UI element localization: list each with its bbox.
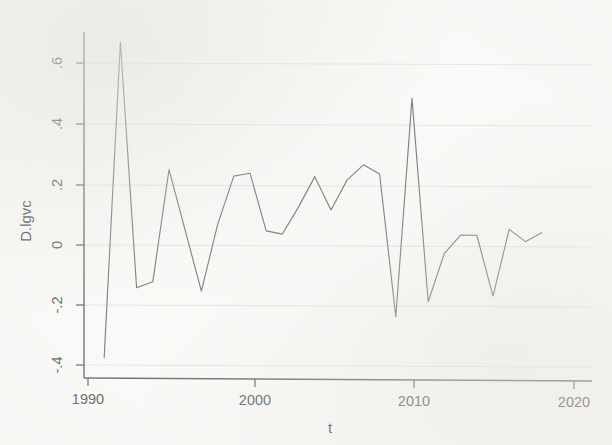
x-axis-line (84, 378, 592, 381)
y-tick-label: .2 (49, 179, 65, 191)
y-tick-label: -.2 (49, 297, 65, 314)
x-axis (84, 378, 592, 389)
y-tick-labels: .6 .4 .2 0 -.2 -.4 (49, 57, 65, 374)
data-series-line (104, 42, 541, 357)
x-tick-label: 2020 (558, 394, 590, 410)
x-tick-label: 2010 (398, 393, 430, 409)
y-axis-title: D.lgvc (17, 200, 34, 242)
y-tick-label: 0 (49, 241, 65, 249)
line-chart-svg: .6 .4 .2 0 -.2 -.4 D.lgvc 1990 2000 2010… (0, 0, 612, 445)
grid-line (84, 245, 592, 247)
x-tick-label: 2000 (239, 392, 271, 408)
grid-line (84, 305, 592, 307)
grid-line (84, 124, 592, 126)
y-tick-label: -.4 (49, 357, 65, 374)
chart-figure: .6 .4 .2 0 -.2 -.4 D.lgvc 1990 2000 2010… (0, 0, 612, 445)
y-tick-label: .6 (49, 57, 65, 69)
x-axis-title: t (328, 419, 333, 436)
y-tick-label: .4 (49, 118, 65, 130)
grid-line (84, 185, 592, 187)
grid-lines (84, 63, 592, 367)
y-axis (76, 32, 84, 378)
x-tick-label: 1990 (72, 391, 104, 407)
grid-line (84, 365, 592, 367)
x-tick-labels: 1990 2000 2010 2020 (72, 391, 590, 410)
grid-line (84, 63, 592, 65)
